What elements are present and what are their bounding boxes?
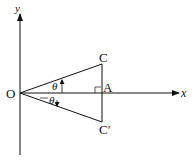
point-label-c-prime: C′ — [99, 122, 111, 137]
segment-oc — [20, 64, 102, 93]
point-label-a: A — [103, 80, 113, 95]
point-label-o: O — [6, 86, 15, 101]
angle-label-lower: θ — [49, 94, 55, 106]
segment-oc-prime — [20, 93, 102, 122]
y-axis-label: y — [14, 2, 20, 14]
right-angle-marker — [95, 87, 101, 93]
point-label-c: C — [99, 50, 108, 65]
diagram-canvas: y x O C A C′ θ θ — [0, 0, 195, 164]
x-axis-label: x — [180, 86, 187, 100]
angle-label-upper: θ — [52, 80, 58, 92]
